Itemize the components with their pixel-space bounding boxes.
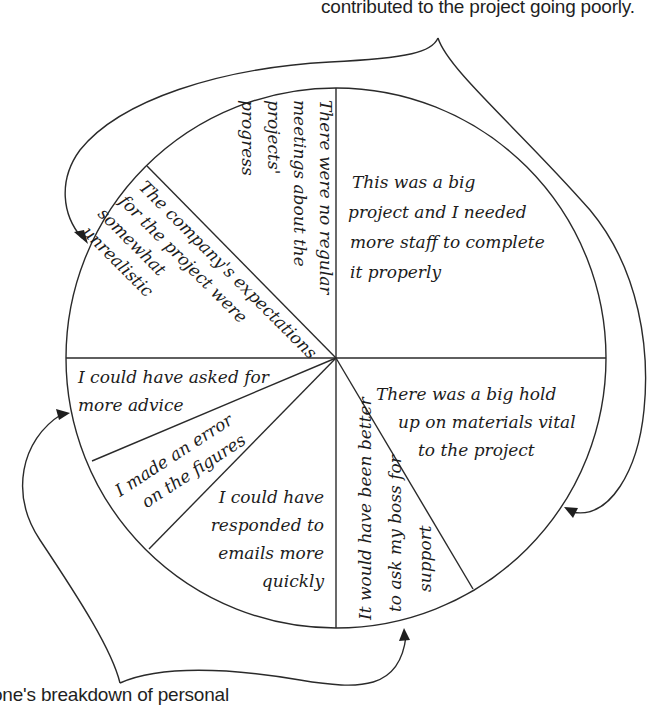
arrow-to-more-advice-icon (56, 409, 70, 420)
slice-text-line: to the project (418, 440, 535, 460)
slice-text-line: emails more (218, 543, 324, 563)
slice-label-big-project-staff: This was a big project and I needed more… (348, 172, 545, 282)
brace-arm-right (120, 636, 406, 685)
slice-text-line: I could have (218, 487, 324, 507)
slice-text-line: to ask my boss for (385, 454, 405, 612)
slice-label-no-meetings: There were no regular meetings about the… (238, 100, 336, 295)
slice-text-line: projects' (264, 100, 284, 174)
arrow-to-ask-boss-icon (399, 628, 410, 641)
slice-label-more-advice: I could have asked for more advice (77, 367, 270, 415)
slice-label-respond-emails: I could have responded to emails more qu… (211, 487, 325, 591)
slice-text-line: It would have been better (355, 396, 375, 621)
brace-arm-up (23, 414, 120, 683)
top-caption: contributed to the project going poorly. (321, 0, 635, 18)
slice-text-line: quickly (262, 571, 325, 591)
bottom-caption: one's breakdown of personal (0, 684, 229, 706)
slice-text-line: meetings about the (290, 100, 310, 267)
slice-text-line: responded to (211, 515, 324, 535)
slice-text-line: up on materials vital (398, 412, 576, 432)
slice-text-line: progress (238, 100, 258, 176)
pie-diagram-figure: contributed to the project going poorly.… (0, 0, 671, 707)
slice-text-line: more staff to complete (350, 232, 545, 252)
slice-text-line: There were no regular (316, 100, 336, 295)
slice-text-line: There was a big hold (376, 384, 557, 404)
pie-chart-svg: There were no regular meetings about the… (0, 0, 671, 707)
slice-text-line: I could have asked for (77, 367, 270, 387)
slice-text-line: it properly (350, 262, 441, 282)
slice-text-line: project and I needed (348, 202, 527, 222)
slice-text-line: support (415, 525, 435, 592)
slice-label-hold-up-materials: There was a big hold up on materials vit… (376, 384, 576, 460)
slice-text-line: This was a big (352, 172, 476, 192)
slice-text-line: more advice (78, 395, 184, 415)
